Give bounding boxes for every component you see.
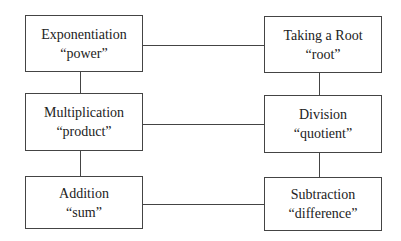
node-label: Exponentiation [41,25,127,44]
node-multiplication: Multiplication “product” [25,93,143,151]
node-label: Multiplication [44,103,124,122]
node-addition: Addition “sum” [25,176,143,229]
node-term: “difference” [289,204,358,223]
node-term: “sum” [66,203,102,222]
connector-exponentiation-multiplication [80,71,81,93]
node-subtraction: Subtraction “difference” [264,177,382,231]
node-label: Taking a Root [283,26,362,45]
node-term: “root” [306,45,341,64]
connector-division-subtraction [319,152,320,177]
connector-exponentiation-root [142,45,264,46]
node-label: Division [299,105,347,124]
node-term: “quotient” [294,124,352,143]
node-term: “product” [56,122,111,141]
connector-addition-subtraction [142,204,264,205]
node-label: Addition [59,184,109,203]
node-division: Division “quotient” [264,95,382,153]
node-label: Subtraction [291,185,356,204]
connector-root-division [319,72,320,95]
node-term: “power” [60,44,107,63]
connector-multiplication-addition [80,150,81,176]
node-exponentiation: Exponentiation “power” [25,15,143,72]
connector-multiplication-division [142,124,264,125]
node-root: Taking a Root “root” [264,16,382,73]
